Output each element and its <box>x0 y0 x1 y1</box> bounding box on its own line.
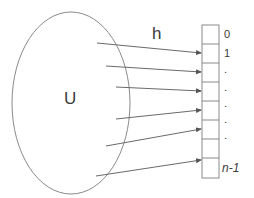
universe-label: U <box>64 89 76 109</box>
slot-index-label: 1 <box>224 47 230 59</box>
hash-table <box>202 25 219 178</box>
slot-index-label: 0 <box>224 28 230 40</box>
slot-index-label: . <box>224 63 227 75</box>
diagram-graphic <box>0 0 254 198</box>
hash-diagram: U h 0 1 . . . . . n-1 <box>0 0 254 198</box>
hash-arrows <box>96 43 201 176</box>
slot-index-label: . <box>224 113 227 125</box>
slot-index-label: . <box>224 97 227 109</box>
slot-index-label-last: n-1 <box>222 161 239 175</box>
slot-index-label: . <box>224 81 227 93</box>
hash-function-label: h <box>152 24 161 44</box>
slot-index-label: . <box>224 129 227 141</box>
